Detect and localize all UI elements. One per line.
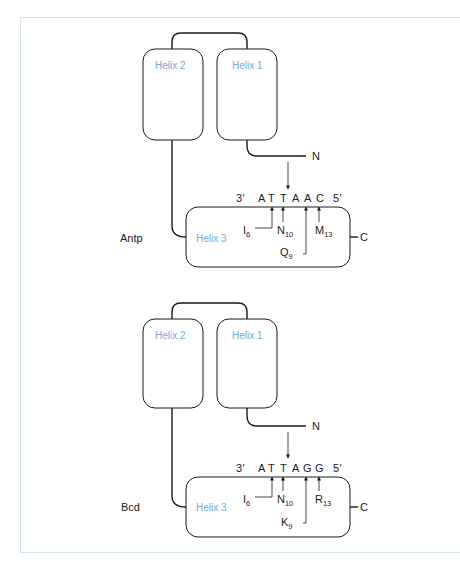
- c-terminus-label: C: [360, 501, 368, 513]
- dna-base: C: [316, 192, 324, 204]
- helix3-label: Helix 3: [196, 233, 227, 244]
- dna-base: A: [258, 462, 266, 474]
- dna-3prime-end: 3′: [236, 192, 245, 204]
- helix2-label: Helix 2: [155, 60, 186, 71]
- n-terminus-tail: [247, 408, 306, 426]
- loop-helix2-helix1: [172, 33, 247, 50]
- n-terminus-label: N: [312, 420, 320, 432]
- loop-helix2-helix3: [172, 408, 186, 507]
- protein-label: Bcd: [121, 501, 140, 513]
- protein-label: Antp: [120, 232, 143, 244]
- dna-base: G: [315, 462, 324, 474]
- dna-3prime-end: 3′: [236, 462, 245, 474]
- dna-base: A: [304, 192, 312, 204]
- dna-sequence: 3′ A T T A G G 5′: [236, 462, 342, 474]
- dna-base: T: [268, 192, 275, 204]
- dna-sequence: 3′ A T T A A C 5′: [236, 192, 342, 204]
- n-terminus-label: N: [312, 150, 320, 162]
- panel-antp: Helix 2 Helix 1 N 3′ A T T A A C 5′ Heli…: [120, 33, 368, 267]
- loop-helix2-helix1: [172, 303, 247, 321]
- dna-5prime-end: 5′: [333, 462, 342, 474]
- c-terminus-label: C: [360, 231, 368, 243]
- dna-base: T: [280, 462, 287, 474]
- loop-helix2-helix3: [172, 140, 186, 237]
- helix2-label: Helix 2: [155, 330, 186, 341]
- dna-base: G: [303, 462, 312, 474]
- panel-bcd: Helix 2 Helix 1 N 3′ A T T A G G 5′ Heli…: [121, 303, 368, 537]
- dna-base: A: [292, 192, 300, 204]
- dna-base: T: [280, 192, 287, 204]
- helix1-label: Helix 1: [232, 60, 263, 71]
- n-terminus-tail: [247, 140, 306, 156]
- dna-base: A: [258, 192, 266, 204]
- dna-5prime-end: 5′: [333, 192, 342, 204]
- helix3-label: Helix 3: [196, 502, 227, 513]
- dna-base: T: [268, 462, 275, 474]
- dna-base: A: [292, 462, 300, 474]
- helix1-label: Helix 1: [232, 330, 263, 341]
